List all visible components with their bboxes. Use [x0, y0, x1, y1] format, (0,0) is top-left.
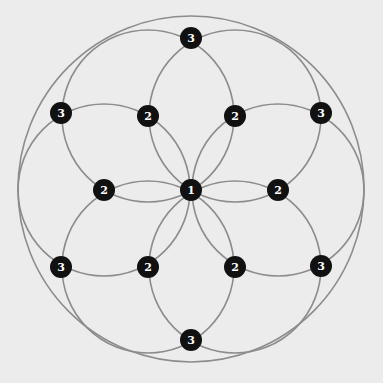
- node-label: 3: [57, 261, 65, 274]
- node-label: 2: [100, 184, 108, 197]
- lattice-node: 3: [180, 27, 202, 49]
- lattice-node: 3: [310, 255, 332, 277]
- node-label: 3: [317, 260, 325, 273]
- lattice-node: 2: [137, 256, 159, 278]
- node-label: 2: [144, 110, 152, 123]
- node-layer: 3322321232233: [50, 27, 332, 351]
- node-label: 2: [231, 110, 239, 123]
- lattice-node: 3: [310, 102, 332, 124]
- lattice-node: 2: [267, 179, 289, 201]
- node-label: 3: [57, 107, 65, 120]
- node-label: 1: [187, 184, 195, 197]
- lattice-node: 2: [137, 105, 159, 127]
- node-label: 2: [231, 261, 239, 274]
- lattice-node: 2: [224, 105, 246, 127]
- lattice-node: 3: [50, 256, 72, 278]
- node-label: 3: [187, 334, 195, 347]
- lattice-node: 2: [224, 256, 246, 278]
- lattice-node: 3: [50, 102, 72, 124]
- lattice-node: 1: [180, 179, 202, 201]
- node-label: 3: [317, 107, 325, 120]
- node-label: 3: [187, 32, 195, 45]
- node-label: 2: [274, 184, 282, 197]
- node-label: 2: [144, 261, 152, 274]
- lattice-node: 3: [180, 329, 202, 351]
- lattice-node: 2: [93, 179, 115, 201]
- flower-lattice-diagram: 3322321232233: [0, 0, 383, 383]
